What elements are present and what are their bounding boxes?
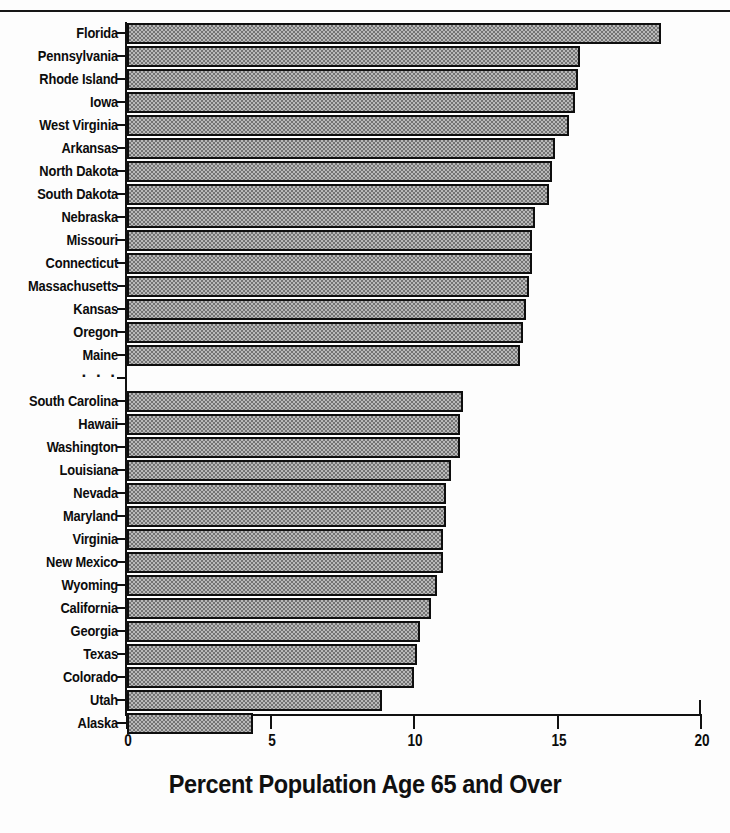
- bar-row: Iowa: [0, 91, 730, 114]
- bar-category-label: South Carolina: [0, 390, 118, 413]
- x-axis-tick: [700, 714, 702, 729]
- bar-row: South Dakota: [0, 183, 730, 206]
- y-axis-tick: [117, 239, 126, 241]
- bar-row: Georgia: [0, 620, 730, 643]
- bar: [127, 253, 532, 274]
- y-axis-tick: [117, 722, 126, 724]
- y-axis-tick: [117, 147, 126, 149]
- bar-row-ellipsis: · · ·: [0, 367, 730, 390]
- x-axis-tick-label: 0: [103, 732, 154, 750]
- bar-chart-plot-area: FloridaPennsylvaniaRhode IslandIowaWest …: [0, 22, 730, 722]
- y-axis-tick: [117, 492, 126, 494]
- bar: [127, 621, 420, 642]
- bar-category-label: Hawaii: [0, 413, 118, 436]
- bar-row: Missouri: [0, 229, 730, 252]
- bar-row: Colorado: [0, 666, 730, 689]
- figure: FloridaPennsylvaniaRhode IslandIowaWest …: [0, 0, 730, 833]
- y-axis-tick: [117, 653, 126, 655]
- bar-category-label: Nebraska: [0, 206, 118, 229]
- bar-row: Nebraska: [0, 206, 730, 229]
- bar-category-label: Florida: [0, 22, 118, 45]
- y-axis-tick: [117, 101, 126, 103]
- y-axis-tick: [117, 561, 126, 563]
- y-axis-tick: [117, 285, 126, 287]
- y-axis-tick: [117, 354, 126, 356]
- y-axis-tick: [117, 446, 126, 448]
- bar: [127, 644, 417, 665]
- y-axis-tick: [117, 32, 126, 34]
- bar-row: Florida: [0, 22, 730, 45]
- page-top-rule: [0, 10, 730, 12]
- bar-category-label: Iowa: [0, 91, 118, 114]
- x-axis-tick: [413, 714, 415, 729]
- bar-row: Massachusetts: [0, 275, 730, 298]
- bar-row: Arkansas: [0, 137, 730, 160]
- bar: [127, 276, 529, 297]
- bar-row: Virginia: [0, 528, 730, 551]
- y-axis-tick: [117, 699, 126, 701]
- bar-row: Louisiana: [0, 459, 730, 482]
- bar: [127, 552, 443, 573]
- x-axis-tick-label: 10: [390, 732, 441, 750]
- bar: [127, 69, 578, 90]
- bar: [127, 230, 532, 251]
- y-axis-tick: [117, 262, 126, 264]
- bar-row: Oregon: [0, 321, 730, 344]
- bar-row: Nevada: [0, 482, 730, 505]
- bar: [127, 529, 443, 550]
- bar: [127, 115, 569, 136]
- x-axis-tick-label: 20: [677, 732, 728, 750]
- bar: [127, 391, 463, 412]
- bar-category-label: South Dakota: [0, 183, 118, 206]
- bar-row: Wyoming: [0, 574, 730, 597]
- bar: [127, 322, 523, 343]
- y-axis-tick: [117, 124, 126, 126]
- bar-row: South Carolina: [0, 390, 730, 413]
- bar-category-label: Washington: [0, 436, 118, 459]
- x-axis-tick: [126, 714, 128, 729]
- bar-category-label: Texas: [0, 643, 118, 666]
- bar-row: Connecticut: [0, 252, 730, 275]
- x-axis-tick: [557, 714, 559, 729]
- y-axis-tick: [117, 55, 126, 57]
- bar-category-label: Utah: [0, 689, 118, 712]
- bar-category-label: Maryland: [0, 505, 118, 528]
- y-axis-tick: [117, 377, 126, 379]
- bar-category-label: North Dakota: [0, 160, 118, 183]
- bar-row: West Virginia: [0, 114, 730, 137]
- y-axis-tick: [117, 538, 126, 540]
- bar-category-label: Alaska: [0, 712, 118, 735]
- bar: [127, 46, 580, 67]
- bar: [127, 713, 253, 734]
- bar-category-label: Nevada: [0, 482, 118, 505]
- bar-row: Kansas: [0, 298, 730, 321]
- ellipsis-marker: · · ·: [0, 364, 118, 387]
- bar-category-label: Massachusetts: [0, 275, 118, 298]
- bar-category-label: Pennsylvania: [0, 45, 118, 68]
- bar: [127, 437, 460, 458]
- y-axis-tick: [117, 216, 126, 218]
- y-axis-tick: [117, 630, 126, 632]
- y-axis-tick: [117, 170, 126, 172]
- bar-category-label: West Virginia: [0, 114, 118, 137]
- bar-category-label: Oregon: [0, 321, 118, 344]
- bar: [127, 460, 451, 481]
- y-axis-tick: [117, 193, 126, 195]
- bar: [127, 690, 382, 711]
- y-axis-tick: [117, 423, 126, 425]
- bar-category-label: Connecticut: [0, 252, 118, 275]
- bar: [127, 598, 431, 619]
- bar-category-label: Rhode Island: [0, 68, 118, 91]
- bar-category-label: Colorado: [0, 666, 118, 689]
- bar: [127, 506, 446, 527]
- bar-category-label: Wyoming: [0, 574, 118, 597]
- bar-category-label: Arkansas: [0, 137, 118, 160]
- bar-row: California: [0, 597, 730, 620]
- bar-category-label: Missouri: [0, 229, 118, 252]
- bar: [127, 138, 555, 159]
- bar-row: Rhode Island: [0, 68, 730, 91]
- y-axis-tick: [117, 515, 126, 517]
- bar-row: Utah: [0, 689, 730, 712]
- bar-category-label: New Mexico: [0, 551, 118, 574]
- bar: [127, 23, 661, 44]
